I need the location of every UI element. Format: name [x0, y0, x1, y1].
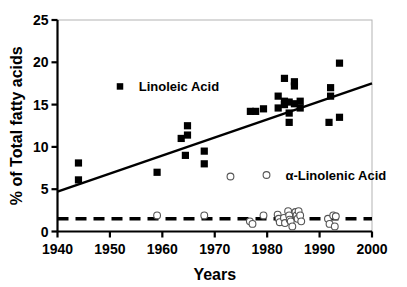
x-tick-label: 1940: [42, 241, 73, 257]
data-point-marker: [298, 218, 305, 225]
data-point-marker: [336, 60, 343, 67]
data-point-marker: [331, 223, 338, 230]
legend-label: α-Linolenic Acid: [286, 168, 387, 183]
data-point-marker: [289, 223, 296, 230]
data-point-marker: [327, 84, 334, 91]
data-point-marker: [178, 135, 185, 142]
data-point-marker: [336, 114, 343, 121]
data-point-marker: [325, 119, 332, 126]
data-point-marker: [75, 159, 82, 166]
legend-marker-linoleic-acid: [117, 83, 124, 90]
y-tick-label: 15: [33, 97, 49, 113]
y-axis-title: % of Total fatty acids: [8, 46, 25, 205]
legend-label: Linoleic Acid: [139, 79, 219, 94]
data-point-marker: [154, 212, 161, 219]
chart-legend: Linoleic Acidα-Linolenic Acid: [117, 79, 387, 183]
y-tick-label: 10: [33, 139, 49, 155]
data-point-marker: [297, 104, 304, 111]
data-point-marker: [184, 122, 191, 129]
data-point-marker: [286, 119, 293, 126]
data-point-marker: [153, 169, 160, 176]
trendlines: [58, 83, 373, 218]
data-point-marker: [260, 212, 267, 219]
scatter-chart: 0510152025 1940195019601970198019902000 …: [0, 0, 407, 287]
x-tick-label: 1990: [304, 241, 335, 257]
data-point-marker: [297, 98, 304, 105]
x-tick-label: 2000: [356, 241, 387, 257]
data-point-marker: [75, 176, 82, 183]
x-tick-label: 1970: [199, 241, 230, 257]
data-point-marker: [275, 104, 282, 111]
data-point-marker: [252, 108, 259, 115]
y-tick-label: 25: [33, 12, 49, 28]
data-point-marker: [201, 160, 208, 167]
y-tick-label: 5: [41, 181, 49, 197]
data-point-marker: [249, 220, 256, 227]
plot-frame: [58, 20, 373, 232]
data-point-marker: [201, 212, 208, 219]
y-tick-label: 0: [41, 224, 49, 240]
chart-figure: 0510152025 1940195019601970198019902000 …: [0, 0, 407, 287]
x-tick-label: 1980: [252, 241, 283, 257]
data-point-marker: [291, 82, 298, 89]
data-point-marker: [184, 131, 191, 138]
y-tick-label: 20: [33, 54, 49, 70]
y-axis-tick-labels: 0510152025: [33, 12, 49, 240]
data-point-marker: [332, 213, 339, 220]
x-axis-title: Years: [193, 266, 236, 283]
data-point-marker: [286, 109, 293, 116]
data-point-marker: [275, 93, 282, 100]
x-tick-label: 1950: [94, 241, 125, 257]
x-tick-label: 1960: [147, 241, 178, 257]
data-point-marker: [281, 75, 288, 82]
legend-marker-alpha-linolenic-acid: [263, 172, 270, 179]
x-axis-tick-labels: 1940195019601970198019902000: [42, 241, 388, 257]
data-point-marker: [201, 148, 208, 155]
data-point-marker: [182, 152, 189, 159]
data-point-marker: [227, 173, 234, 180]
data-point-marker: [327, 93, 334, 100]
data-point-marker: [260, 105, 267, 112]
